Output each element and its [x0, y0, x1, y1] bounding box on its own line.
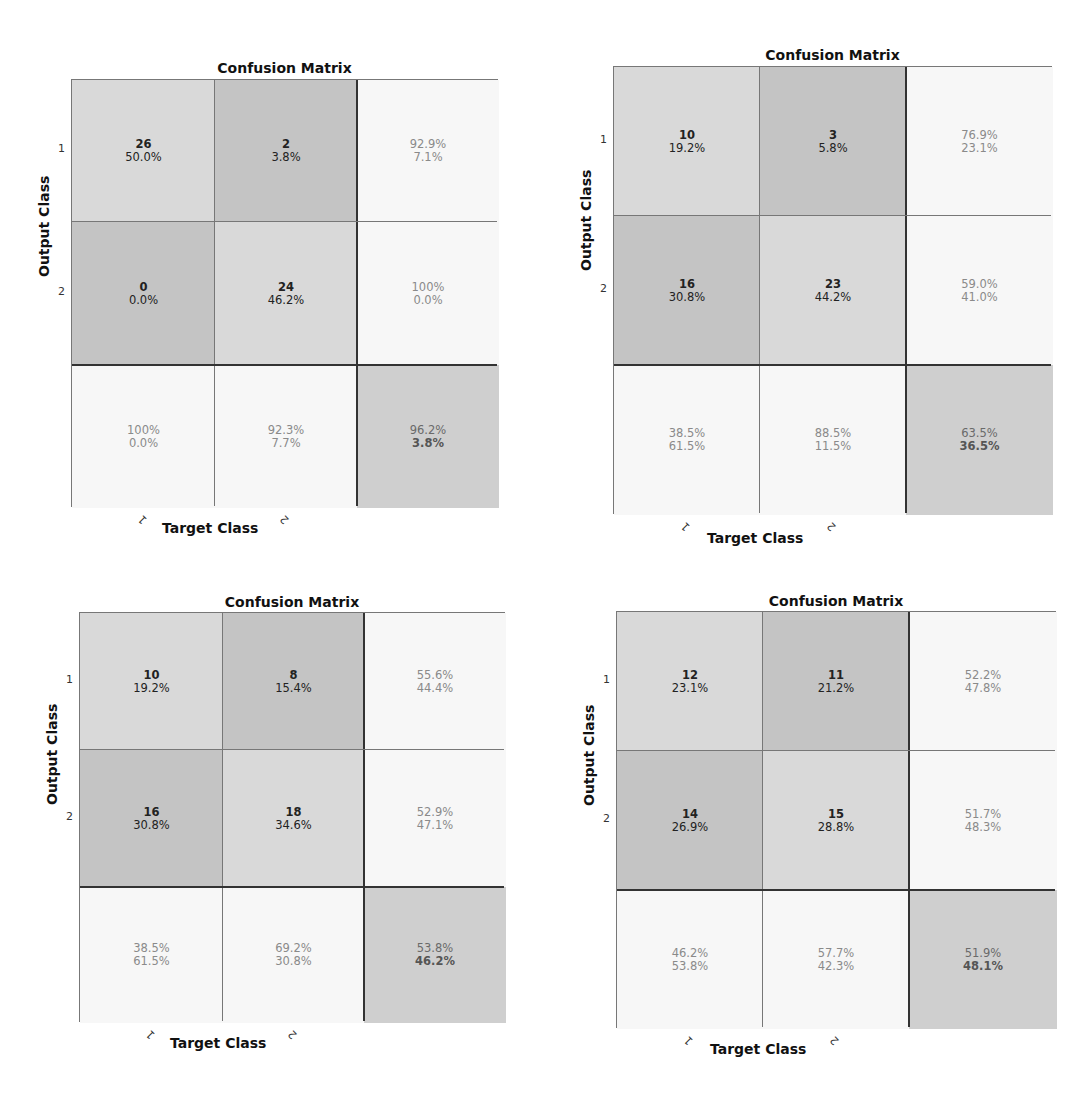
cell-value: 100% — [412, 281, 445, 294]
matrix-cell-2-1: 1630.8% — [614, 216, 760, 365]
cell-percent: 3.8% — [412, 437, 444, 450]
cell-value: 76.9% — [961, 129, 998, 142]
x-axis-label: Target Class — [162, 520, 258, 536]
cell-percent: 53.8% — [672, 960, 709, 973]
cell-percent: 23.1% — [672, 682, 709, 695]
cell-percent: 26.9% — [672, 821, 709, 834]
y-axis-label: Output Class — [44, 709, 60, 805]
y-tick-label: 2 — [66, 810, 73, 823]
cell-value: 8 — [289, 669, 297, 682]
col-summary-cell-1: 100%0.0% — [72, 365, 215, 508]
cell-value: 3 — [829, 129, 837, 142]
cell-value: 59.0% — [961, 278, 998, 291]
y-tick-label: 2 — [58, 285, 65, 298]
cell-percent: 41.0% — [961, 291, 998, 304]
cell-value: 12 — [682, 669, 698, 682]
cell-value: 23 — [825, 278, 841, 291]
cell-percent: 23.1% — [961, 142, 998, 155]
matrix-cell-1-1: 1019.2% — [614, 67, 760, 216]
cell-percent: 30.8% — [669, 291, 706, 304]
cell-value: 24 — [278, 281, 294, 294]
x-tick-label: 2 — [827, 1033, 841, 1047]
chart-title: Confusion Matrix — [71, 60, 498, 76]
chart-title: Confusion Matrix — [79, 594, 505, 610]
divider — [72, 221, 497, 222]
row-summary-cell-1: 92.9%7.1% — [357, 80, 499, 222]
x-axis-label: Target Class — [707, 530, 803, 546]
overall-accuracy-cell: 51.9%48.1% — [909, 890, 1057, 1029]
divider — [614, 215, 1051, 216]
cell-value: 16 — [143, 806, 159, 819]
cell-percent: 3.8% — [271, 151, 300, 164]
y-tick-label: 1 — [58, 142, 65, 155]
x-tick-label: 1 — [681, 1033, 695, 1047]
matrix-cell-2-2: 1528.8% — [763, 751, 909, 890]
cell-value: 10 — [143, 669, 159, 682]
row-summary-cell-2: 59.0%41.0% — [906, 216, 1053, 365]
cell-percent: 46.2% — [415, 955, 455, 968]
cell-percent: 7.7% — [271, 437, 300, 450]
y-tick-label: 2 — [600, 282, 607, 295]
y-tick-label: 1 — [603, 673, 610, 686]
x-tick-label: 1 — [678, 519, 692, 533]
matrix-cell-2-1: 1426.9% — [617, 751, 763, 890]
cell-percent: 30.8% — [133, 819, 170, 832]
matrix-cell-2-1: 1630.8% — [80, 750, 223, 887]
cell-value: 92.3% — [268, 424, 305, 437]
matrix-cell-1-1: 1223.1% — [617, 612, 763, 751]
cell-percent: 48.3% — [965, 821, 1002, 834]
cell-value: 57.7% — [818, 947, 855, 960]
cell-percent: 42.3% — [818, 960, 855, 973]
divider-thick — [72, 364, 497, 366]
divider — [762, 612, 763, 1027]
cell-value: 52.2% — [965, 669, 1002, 682]
y-tick-label: 1 — [600, 133, 607, 146]
cell-value: 15 — [828, 808, 844, 821]
divider-thick — [80, 886, 504, 888]
col-summary-cell-2: 57.7%42.3% — [763, 890, 909, 1029]
divider-thick — [356, 80, 358, 506]
cell-percent: 44.2% — [815, 291, 852, 304]
matrix-grid: 1223.1%1121.2%52.2%47.8%1426.9%1528.8%51… — [616, 611, 1056, 1028]
cell-percent: 61.5% — [133, 955, 170, 968]
cell-value: 14 — [682, 808, 698, 821]
divider — [617, 750, 1055, 751]
x-tick-label: 2 — [285, 1027, 299, 1041]
matrix-grid: 1019.2%35.8%76.9%23.1%1630.8%2344.2%59.0… — [613, 66, 1052, 514]
row-summary-cell-1: 55.6%44.4% — [364, 613, 506, 750]
x-axis-label: Target Class — [170, 1035, 266, 1051]
divider-thick — [908, 612, 910, 1027]
col-summary-cell-1: 38.5%61.5% — [80, 887, 223, 1023]
divider — [214, 80, 215, 506]
cell-percent: 0.0% — [129, 437, 158, 450]
y-axis-label: Output Class — [578, 175, 594, 271]
cell-value: 100% — [127, 424, 160, 437]
divider — [222, 613, 223, 1021]
cell-percent: 7.1% — [413, 151, 442, 164]
divider-thick — [614, 364, 1051, 366]
cell-percent: 19.2% — [669, 142, 706, 155]
cell-percent: 28.8% — [818, 821, 855, 834]
y-tick-label: 2 — [603, 812, 610, 825]
matrix-cell-1-1: 2650.0% — [72, 80, 215, 222]
divider-thick — [363, 613, 365, 1021]
matrix-grid: 2650.0%23.8%92.9%7.1%00.0%2446.2%100%0.0… — [71, 79, 498, 507]
divider-thick — [905, 67, 907, 513]
chart-title: Confusion Matrix — [613, 47, 1052, 63]
cell-value: 18 — [285, 806, 301, 819]
x-tick-label: 1 — [143, 1027, 157, 1041]
matrix-cell-2-2: 2344.2% — [760, 216, 906, 365]
cell-value: 10 — [679, 129, 695, 142]
col-summary-cell-1: 38.5%61.5% — [614, 365, 760, 515]
matrix-cell-1-2: 35.8% — [760, 67, 906, 216]
y-axis-label: Output Class — [581, 710, 597, 806]
cell-percent: 19.2% — [133, 682, 170, 695]
col-summary-cell-1: 46.2%53.8% — [617, 890, 763, 1029]
row-summary-cell-2: 52.9%47.1% — [364, 750, 506, 887]
row-summary-cell-1: 52.2%47.8% — [909, 612, 1057, 751]
row-summary-cell-2: 51.7%48.3% — [909, 751, 1057, 890]
cell-percent: 30.8% — [275, 955, 312, 968]
cell-value: 96.2% — [410, 424, 447, 437]
matrix-cell-1-2: 815.4% — [223, 613, 364, 750]
cell-percent: 11.5% — [815, 440, 852, 453]
